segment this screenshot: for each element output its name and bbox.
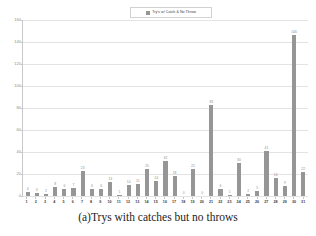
bar-slot: 22 xyxy=(299,20,308,196)
x-axis-tick-label: 17 xyxy=(172,201,176,205)
x-axis-label-slot: 14 xyxy=(142,198,151,207)
bar[interactable]: 6 xyxy=(62,189,66,196)
x-axis-tick-label: 30 xyxy=(292,201,296,205)
x-axis-label-slot: 10 xyxy=(105,198,114,207)
bar-slot: 2 xyxy=(244,20,253,196)
bar-value-label: 22 xyxy=(301,168,305,171)
bar-value-label: 32 xyxy=(164,157,168,160)
bar[interactable]: 22 xyxy=(301,172,305,196)
bar[interactable]: 1 xyxy=(228,195,232,196)
bar-slot: 3 xyxy=(32,20,41,196)
bar[interactable]: 9 xyxy=(283,186,287,196)
x-axis-tick-label: 4 xyxy=(53,201,55,205)
plot-area: 020406080100120140160 432867236613110112… xyxy=(22,20,308,197)
bar-slot: 0 xyxy=(179,20,188,196)
bar-value-label: 5 xyxy=(256,187,258,190)
bar[interactable]: 25 xyxy=(145,169,149,197)
x-axis-tick-label: 25 xyxy=(246,201,250,205)
bar[interactable]: 6 xyxy=(218,189,222,196)
bar[interactable]: 8 xyxy=(53,187,57,196)
bar[interactable]: 146 xyxy=(292,35,296,196)
x-axis-tick-label: 29 xyxy=(283,201,287,205)
bar[interactable]: 41 xyxy=(264,151,268,196)
bar-slot: 30 xyxy=(234,20,243,196)
x-axis-label-slot: 27 xyxy=(262,198,271,207)
x-axis-label-slot: 23 xyxy=(225,198,234,207)
chart-legend: Try's w/ Catch & No Throw xyxy=(130,7,212,18)
bar[interactable]: 13 xyxy=(108,182,112,196)
x-axis-label-slot: 6 xyxy=(68,198,77,207)
bar[interactable]: 7 xyxy=(71,188,75,196)
x-axis-label-slot: 16 xyxy=(160,198,169,207)
x-axis-label-slot: 22 xyxy=(216,198,225,207)
bar-value-label: 25 xyxy=(145,165,149,168)
y-axis-tick-label: 0 xyxy=(19,194,21,198)
x-axis-tick-label: 12 xyxy=(126,201,130,205)
bar-slot: 41 xyxy=(262,20,271,196)
bar-slot: 11 xyxy=(133,20,142,196)
bar[interactable]: 83 xyxy=(209,105,213,196)
bar[interactable]: 18 xyxy=(173,176,177,196)
x-axis-label-slot: 30 xyxy=(289,198,298,207)
bar[interactable]: 3 xyxy=(35,193,39,196)
legend-label: Try's w/ Catch & No Throw xyxy=(152,11,196,15)
x-axis-label-slot: 25 xyxy=(243,198,252,207)
bar-slot: 25 xyxy=(142,20,151,196)
bar-value-label: 30 xyxy=(237,159,241,162)
x-axis-tick-label: 11 xyxy=(117,201,121,205)
bar[interactable]: 14 xyxy=(154,181,158,196)
bar-value-label: 6 xyxy=(63,185,65,188)
x-axis-label-slot: 5 xyxy=(59,198,68,207)
bar[interactable]: 10 xyxy=(127,185,131,196)
x-axis-tick-label: 19 xyxy=(190,201,194,205)
bar[interactable]: 11 xyxy=(136,184,140,196)
bar[interactable]: 16 xyxy=(274,178,278,196)
bar[interactable]: 2 xyxy=(44,194,48,196)
bar-value-label: 14 xyxy=(154,177,158,180)
y-axis-tick-label: 100 xyxy=(14,84,21,88)
bar-slot: 4 xyxy=(23,20,32,196)
x-axis-label-slot: 15 xyxy=(151,198,160,207)
x-axis-labels: 1234567891011121314151617181920212223242… xyxy=(22,198,308,207)
x-axis-tick-label: 6 xyxy=(72,201,74,205)
bar-value-label: 11 xyxy=(136,180,140,183)
x-axis-tick-label: 28 xyxy=(273,201,277,205)
bar[interactable]: 1 xyxy=(117,195,121,196)
x-axis-tick-label: 26 xyxy=(255,201,259,205)
bar[interactable]: 23 xyxy=(81,171,85,196)
x-axis-tick-label: 13 xyxy=(135,201,139,205)
bar[interactable]: 25 xyxy=(191,169,195,197)
y-axis-tick-label: 40 xyxy=(17,150,21,154)
x-axis-label-slot: 21 xyxy=(206,198,215,207)
bar-slot: 6 xyxy=(97,20,106,196)
bar-slot: 0 xyxy=(198,20,207,196)
bar[interactable]: 6 xyxy=(99,189,103,196)
bar-slot: 13 xyxy=(106,20,115,196)
bar-value-label: 13 xyxy=(108,178,112,181)
x-axis-tick-label: 7 xyxy=(81,201,83,205)
bar-value-label: 2 xyxy=(45,190,47,193)
bar-value-label: 16 xyxy=(274,174,278,177)
bar[interactable]: 4 xyxy=(26,192,30,196)
x-axis-label-slot: 12 xyxy=(123,198,132,207)
bar-value-label: 25 xyxy=(191,165,195,168)
bar-series: 4328672366131101125143218025083613025411… xyxy=(23,20,308,196)
x-axis-tick-label: 3 xyxy=(44,201,46,205)
bar[interactable]: 2 xyxy=(246,194,250,196)
bar-slot: 14 xyxy=(152,20,161,196)
bar-value-label: 8 xyxy=(54,183,56,186)
bar-slot: 83 xyxy=(207,20,216,196)
bar-value-label: 6 xyxy=(220,185,222,188)
bar[interactable]: 6 xyxy=(90,189,94,196)
bar[interactable]: 32 xyxy=(163,161,167,196)
bar[interactable]: 5 xyxy=(255,191,259,197)
bar-slot: 9 xyxy=(280,20,289,196)
bar-value-label: 10 xyxy=(127,181,131,184)
bar-slot: 1 xyxy=(225,20,234,196)
bar-slot: 8 xyxy=(51,20,60,196)
x-axis-tick-label: 24 xyxy=(237,201,241,205)
bar[interactable]: 30 xyxy=(237,163,241,196)
bar-value-label: 0 xyxy=(201,192,203,195)
x-axis-tick-label: 31 xyxy=(301,201,305,205)
bar-value-label: 146 xyxy=(291,31,297,34)
